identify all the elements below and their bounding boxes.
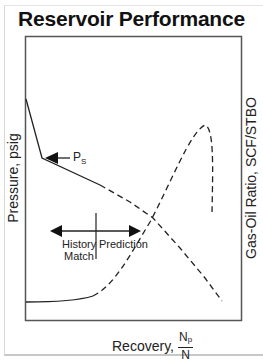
fraction-numerator: Np bbox=[178, 331, 193, 348]
ps-label-main: P bbox=[73, 150, 81, 164]
pressure-curve-history bbox=[26, 99, 100, 185]
plot-area bbox=[0, 0, 263, 361]
ps-label-sub: S bbox=[81, 157, 86, 166]
fraction-denominator: N bbox=[181, 348, 190, 361]
prediction-label: Prediction bbox=[99, 238, 148, 250]
recovery-fraction: Np N bbox=[178, 331, 193, 361]
history-match-label: History Match bbox=[62, 238, 96, 262]
x-axis-label: Recovery, Np N bbox=[112, 331, 193, 361]
gor-curve-prediction bbox=[93, 125, 213, 296]
numerator-n: N bbox=[179, 330, 188, 344]
y-axis-left-label: Pressure, psig bbox=[5, 133, 21, 222]
gor-curve-history bbox=[26, 296, 93, 302]
y-axis-right-label: Gas-Oil Ratio, SCF/STBO bbox=[243, 97, 259, 259]
ps-label: PS bbox=[73, 150, 86, 166]
history-label-line2: Match bbox=[62, 250, 96, 262]
history-label-line1: History bbox=[62, 238, 96, 250]
ps-arrow bbox=[45, 152, 70, 164]
numerator-sub: p bbox=[188, 335, 192, 344]
x-axis-label-prefix: Recovery, bbox=[112, 338, 174, 354]
plot-frame bbox=[26, 37, 242, 321]
